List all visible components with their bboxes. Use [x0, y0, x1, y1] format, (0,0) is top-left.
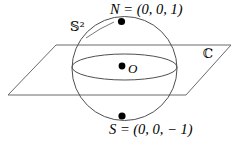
sphere-outline: [72, 17, 177, 121]
plane-outline: [8, 45, 231, 95]
stereographic-projection-figure: N = (0, 0, 1) S = (0, 0, − 1) O 𝕊² ℂ: [0, 0, 237, 142]
origin-point: [119, 63, 126, 70]
sphere-label: 𝕊²: [70, 20, 85, 33]
south-pole-label: S = (0, 0, − 1): [109, 122, 193, 137]
complex-plane-label: ℂ: [203, 47, 213, 60]
complex-plane-parallelogram: [8, 45, 231, 95]
origin-label: O: [128, 62, 137, 75]
north-pole-point: [118, 18, 125, 25]
north-pole-label: N = (0, 0, 1): [110, 2, 183, 17]
south-pole-point: [118, 112, 125, 119]
sphere-label-leader-line: [86, 22, 114, 38]
